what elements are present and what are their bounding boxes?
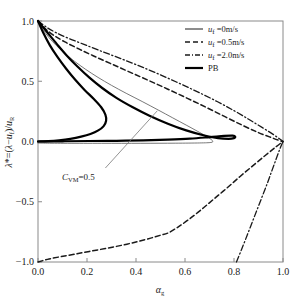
- annotation-vm: VM: [68, 176, 79, 183]
- series-curve-5: [38, 21, 235, 142]
- y-axis-title: λ*=(λ−uf)/uR: [3, 116, 15, 169]
- y-tick-label-1: 0.5: [22, 76, 35, 87]
- annotation-val: =0.5: [79, 172, 96, 182]
- y-tick-label-0: 1.0: [22, 16, 35, 27]
- series-curve-2: [38, 142, 283, 263]
- x-tick-label-2: 0.4: [130, 266, 143, 277]
- x-tick-label-1: 0.2: [81, 266, 94, 277]
- x-axis-title-sub: g: [161, 289, 165, 296]
- legend-item-1: uf =0.5m/s: [185, 37, 244, 49]
- legend: uf =0m/s uf =0.5m/s uf =2.0m/s PB: [185, 24, 244, 73]
- chart-svg: 0.0 0.2 0.4 0.6 0.8 1.0 1.0 0.5 0.0 −0.5…: [0, 0, 300, 303]
- legend-item-3: PB: [185, 63, 219, 73]
- y-tick-label-4: −1.0: [16, 256, 34, 267]
- legend-label-1: uf =0.5m/s: [208, 37, 244, 49]
- series-curve-1: [38, 21, 283, 142]
- legend-item-0: uf =0m/s: [185, 24, 238, 36]
- x-tick-label-5: 1.0: [277, 266, 290, 277]
- legend-label-0: uf =0m/s: [208, 24, 238, 36]
- chart-figure: 0.0 0.2 0.4 0.6 0.8 1.0 1.0 0.5 0.0 −0.5…: [0, 0, 300, 303]
- data-series-group: [38, 21, 283, 262]
- annotation-cvm-label: CVM=0.5: [62, 172, 95, 183]
- legend-item-2: uf =2.0m/s: [185, 50, 244, 62]
- x-tick-label-3: 0.6: [179, 266, 192, 277]
- series-curve-6: [38, 21, 106, 142]
- y-tick-label-3: −0.5: [16, 196, 34, 207]
- series-curve-0: [38, 21, 213, 143]
- legend-label-3: PB: [208, 63, 219, 73]
- series-curve-3: [38, 21, 283, 142]
- x-tick-label-0: 0.0: [32, 266, 45, 277]
- legend-label-2: uf =2.0m/s: [208, 50, 244, 62]
- y-tick-label-2: 0.0: [22, 136, 35, 147]
- x-tick-label-4: 0.8: [228, 266, 241, 277]
- x-axis-title: αg: [156, 284, 165, 296]
